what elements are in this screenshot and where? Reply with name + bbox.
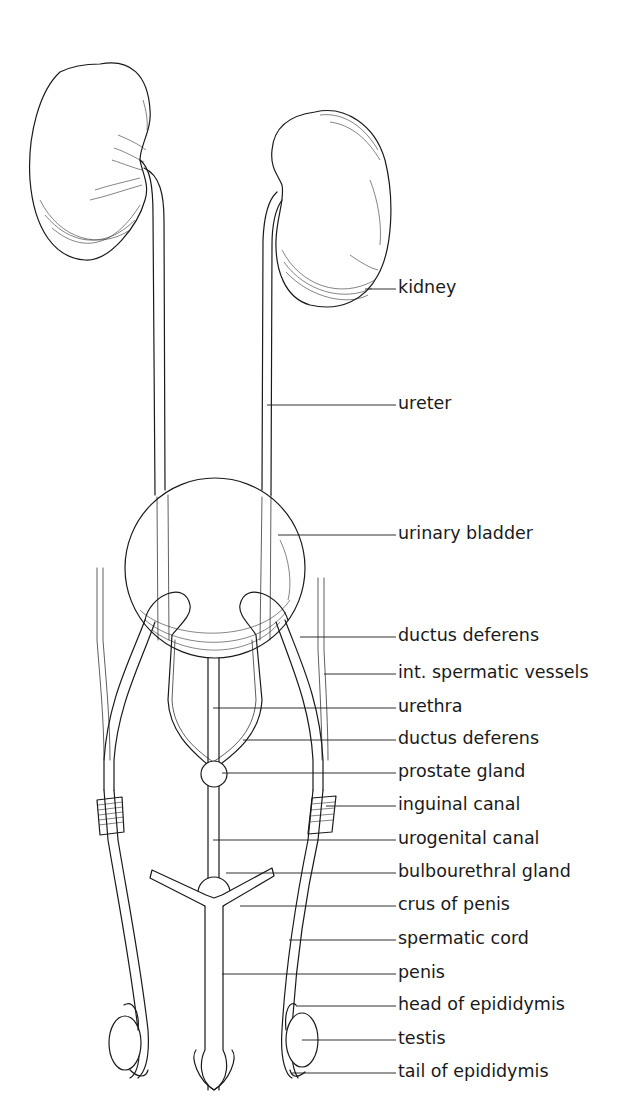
label-kidney: kidney	[398, 279, 456, 297]
label-urethra: urethra	[398, 698, 463, 716]
label-prostate-gland: prostate gland	[398, 763, 525, 781]
label-inguinal-canal: inguinal canal	[398, 796, 520, 814]
label-urogenital-canal: urogenital canal	[398, 830, 539, 848]
label-ductus-deferens-upper: ductus deferens	[398, 627, 539, 645]
urethra-penis-illustration	[150, 658, 274, 1090]
left-kidney-illustration	[30, 63, 151, 260]
label-int-spermatic-vessels: int. spermatic vessels	[398, 664, 589, 682]
label-tail-of-epididymis: tail of epididymis	[398, 1063, 549, 1081]
label-head-of-epididymis: head of epididymis	[398, 996, 565, 1014]
right-kidney-illustration	[272, 111, 391, 307]
label-ductus-deferens-lower: ductus deferens	[398, 730, 539, 748]
label-spermatic-cord: spermatic cord	[398, 930, 529, 948]
inguinal-canal-illustration	[97, 796, 336, 835]
label-testis: testis	[398, 1030, 446, 1048]
label-ureter: ureter	[398, 395, 452, 413]
label-bulbourethral-gland: bulbourethral gland	[398, 863, 571, 881]
leader-lines	[213, 289, 396, 1073]
label-penis: penis	[398, 964, 445, 982]
ureters-illustration	[140, 160, 282, 495]
label-urinary-bladder: urinary bladder	[398, 525, 533, 543]
label-crus-of-penis: crus of penis	[398, 896, 510, 914]
